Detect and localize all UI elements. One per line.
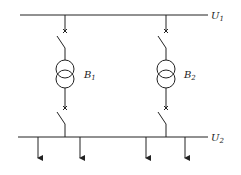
transformer-winding-icon [157,70,175,88]
switch-blade [57,112,65,124]
transformer-b2-label: B2 [183,69,196,82]
switch-blade [158,112,166,124]
switch-blade [158,36,166,48]
switch-blade [57,36,65,48]
bus-u1-label: U1 [211,10,224,23]
branch-b1 [56,15,74,137]
bus-u2-label: U2 [211,132,224,145]
transformer-winding-icon [56,60,74,78]
single-line-diagram: U1 U2 B1 B2 [0,0,241,175]
transformer-winding-icon [56,70,74,88]
branch-b2 [157,15,175,137]
transformer-winding-icon [157,60,175,78]
transformer-b1-label: B1 [83,69,96,82]
